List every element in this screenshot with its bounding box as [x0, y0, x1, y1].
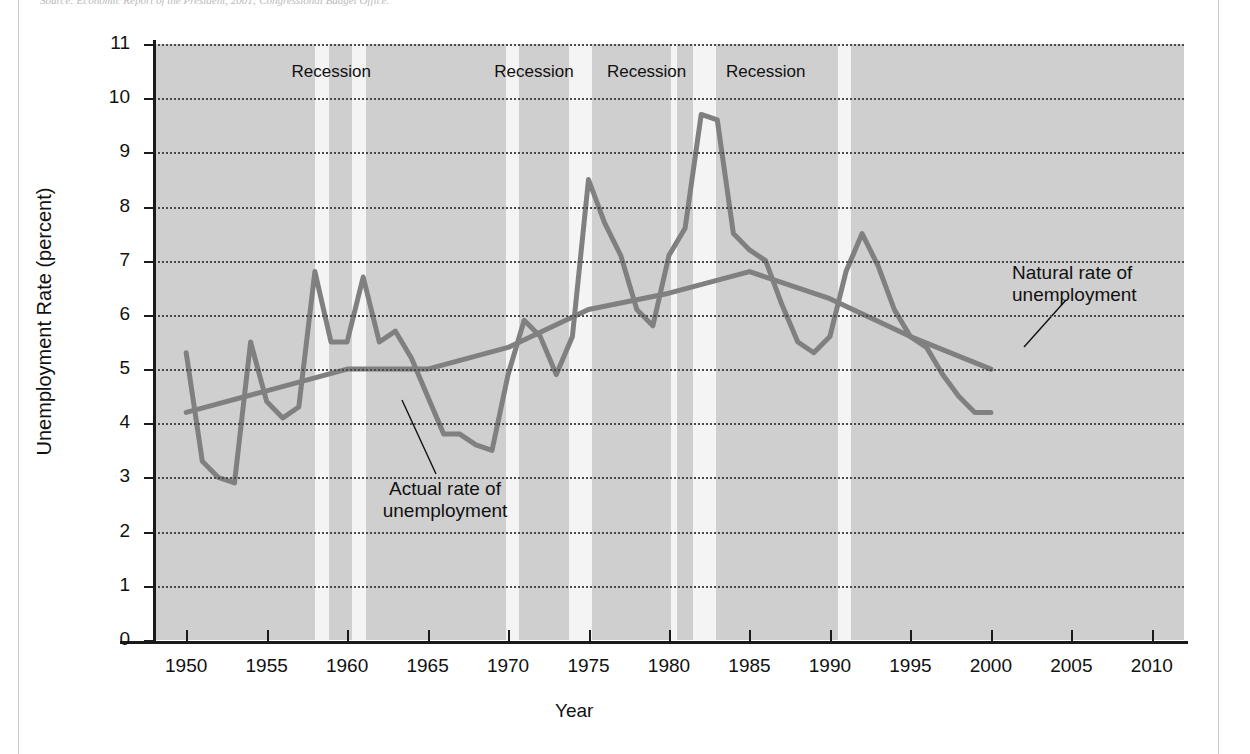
x-axis-tick-label: 2000: [956, 655, 1026, 677]
x-axis-tick: [669, 630, 671, 644]
recession-label: Recession: [291, 62, 370, 82]
recession-band: [693, 44, 716, 640]
x-axis-tick: [508, 630, 510, 644]
recession-band: [352, 44, 366, 640]
gridline: [154, 315, 1184, 317]
gridline: [154, 261, 1184, 263]
recession-label: Recession: [726, 62, 805, 82]
y-axis-tick: [144, 369, 156, 371]
y-axis-tick-label: 10: [96, 86, 130, 108]
x-axis-tick-label: 1970: [473, 655, 543, 677]
source-note: Source: Economic Report of the President…: [40, 0, 820, 10]
gridline: [154, 586, 1184, 588]
annotation-actual-line1: Actual rate of: [330, 478, 560, 500]
y-axis-tick: [144, 44, 156, 46]
recession-band: [315, 44, 329, 640]
x-axis-title: Year: [555, 700, 593, 722]
x-axis-tick-label: 1955: [232, 655, 302, 677]
x-axis-tick: [267, 630, 269, 644]
y-axis-tick-label: 8: [96, 195, 130, 217]
y-axis-tick-label: 2: [96, 520, 130, 542]
figure-frame-left-rule: [18, 0, 19, 754]
x-axis-tick: [186, 630, 188, 644]
annotation-natural-line2: unemployment: [1012, 284, 1212, 306]
gridline: [154, 369, 1184, 371]
y-axis-line: [153, 40, 156, 644]
x-axis-tick: [910, 630, 912, 644]
y-axis-tick-label: 6: [96, 303, 130, 325]
y-axis-tick-label: 7: [96, 249, 130, 271]
x-axis-tick: [830, 630, 832, 644]
gridline: [154, 477, 1184, 479]
y-axis-tick: [144, 640, 156, 642]
gridline: [154, 423, 1184, 425]
gridline: [154, 532, 1184, 534]
x-axis-tick-label: 1975: [554, 655, 624, 677]
gridline: [154, 44, 1184, 46]
figure-frame-right-rule: [1218, 0, 1219, 754]
x-axis-tick: [347, 630, 349, 644]
y-axis-tick: [144, 423, 156, 425]
x-axis-tick: [1071, 630, 1073, 644]
x-axis-tick-label: 1965: [393, 655, 463, 677]
y-axis-tick: [144, 98, 156, 100]
y-axis-tick: [144, 152, 156, 154]
y-axis-title: Unemployment Rate (percent): [33, 82, 56, 562]
y-axis-tick-label: 9: [96, 140, 130, 162]
x-axis-tick: [428, 630, 430, 644]
recession-band: [838, 44, 851, 640]
annotation-actual-line2: unemployment: [330, 500, 560, 522]
y-axis-tick: [144, 532, 156, 534]
y-axis-tick-label: 5: [96, 357, 130, 379]
y-axis-tick-label: 4: [96, 411, 130, 433]
y-axis-tick: [144, 207, 156, 209]
y-axis-tick-label: 3: [96, 465, 130, 487]
gridline: [154, 152, 1184, 154]
y-axis-tick: [144, 586, 156, 588]
x-axis-tick-label: 1985: [714, 655, 784, 677]
x-axis-tick: [1152, 630, 1154, 644]
y-axis-tick-label: 1: [96, 574, 130, 596]
y-axis-tick-label: 0: [96, 628, 130, 650]
y-axis-tick-label: 11: [96, 32, 130, 54]
x-axis-tick-label: 1960: [312, 655, 382, 677]
recession-label: Recession: [607, 62, 686, 82]
recession-band: [569, 44, 592, 640]
recession-label: Recession: [494, 62, 573, 82]
x-axis-tick: [589, 630, 591, 644]
figure-unemployment-chart: Source: Economic Report of the President…: [0, 0, 1250, 754]
y-axis-tick: [144, 315, 156, 317]
y-axis-tick: [144, 261, 156, 263]
x-axis-tick-label: 1995: [875, 655, 945, 677]
recession-band: [671, 44, 677, 640]
x-axis-tick-label: 1980: [634, 655, 704, 677]
x-axis-line: [120, 641, 1188, 644]
x-axis-tick-label: 2005: [1036, 655, 1106, 677]
plot-area: [154, 44, 1184, 640]
x-axis-tick: [991, 630, 993, 644]
y-axis-tick: [144, 477, 156, 479]
x-axis-tick-label: 1990: [795, 655, 865, 677]
x-axis-tick-label: 2010: [1117, 655, 1187, 677]
x-axis-tick: [749, 630, 751, 644]
annotation-actual-rate: Actual rate of unemployment: [330, 478, 560, 523]
annotation-natural-line1: Natural rate of: [1012, 262, 1212, 284]
recession-band: [506, 44, 519, 640]
gridline: [154, 98, 1184, 100]
annotation-natural-rate: Natural rate of unemployment: [1012, 262, 1212, 307]
x-axis-tick-label: 1950: [151, 655, 221, 677]
gridline: [154, 207, 1184, 209]
